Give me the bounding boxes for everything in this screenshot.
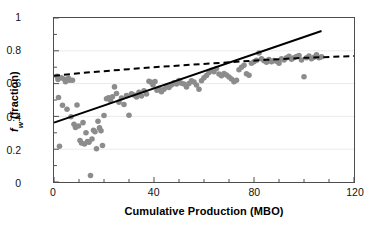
data-layer xyxy=(54,18,354,182)
y-tick-label: 0 xyxy=(15,178,21,188)
scatter-series-0 xyxy=(54,50,324,178)
x-tick-label: 120 xyxy=(346,187,364,198)
x-tick-label: 0 xyxy=(50,187,56,198)
y-tick-label: 1 xyxy=(15,12,21,22)
y-axis-title: fw (fraction) xyxy=(8,42,23,162)
x-axis-title: Cumulative Production (MBO) xyxy=(53,205,355,217)
x-tick-label: 80 xyxy=(248,187,260,198)
trend-line-1 xyxy=(54,31,321,123)
chart-figure: 00.20.40.60.8104080120 Cumulative Produc… xyxy=(0,0,379,229)
y-axis-subscript: w xyxy=(16,122,25,128)
plot-area xyxy=(53,17,355,183)
x-tick-label: 40 xyxy=(148,187,160,198)
y-axis-symbol: f xyxy=(8,128,20,132)
y-axis-unit: (fraction) xyxy=(8,71,20,122)
